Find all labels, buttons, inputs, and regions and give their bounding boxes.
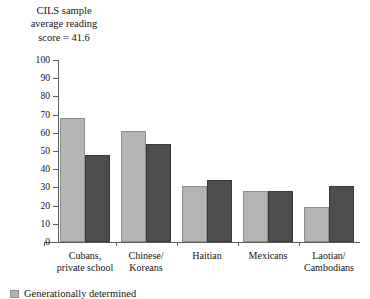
bar xyxy=(121,131,146,242)
y-axis-tick-label: 20 xyxy=(22,201,50,211)
y-axis-tick xyxy=(53,224,58,225)
y-axis-line xyxy=(58,60,59,243)
bar xyxy=(304,207,329,242)
bar xyxy=(207,180,232,242)
y-axis-tick-label: 60 xyxy=(22,128,50,138)
chart-legend: Generationally determined xyxy=(10,288,136,299)
y-axis-tick-label: 100 xyxy=(22,55,50,65)
y-axis-tick-label: 70 xyxy=(22,110,50,120)
y-axis-tick xyxy=(53,187,58,188)
category-label-line-2: Koreans xyxy=(91,262,201,274)
bar xyxy=(268,191,293,242)
chart-title-line-2: average reading xyxy=(8,17,120,30)
x-axis-separator-tick xyxy=(116,242,117,246)
bar xyxy=(85,155,110,242)
y-axis-tick xyxy=(53,151,58,152)
x-axis-separator-tick xyxy=(177,242,178,246)
bar xyxy=(146,144,171,242)
x-axis-separator-tick xyxy=(238,242,239,246)
x-axis-start-tick xyxy=(44,242,45,246)
bar xyxy=(60,118,85,242)
chart-title-line-1: CILS sample xyxy=(8,4,120,17)
y-axis-tick xyxy=(53,78,58,79)
y-axis-tick xyxy=(53,206,58,207)
y-axis-tick-label: 30 xyxy=(22,182,50,192)
bar xyxy=(182,186,207,242)
bar xyxy=(329,186,354,242)
category-label-line-1: Laotian/ xyxy=(274,250,370,262)
y-axis-tick xyxy=(53,60,58,61)
y-axis-tick-label: 10 xyxy=(22,219,50,229)
y-axis-tick xyxy=(53,133,58,134)
bar xyxy=(243,191,268,242)
chart-title: CILS sample average reading score = 41.6 xyxy=(8,4,120,44)
legend-swatch-light xyxy=(10,290,19,298)
y-axis-tick-label: 50 xyxy=(22,146,50,156)
y-axis-tick xyxy=(53,115,58,116)
legend-label: Generationally determined xyxy=(24,288,136,299)
y-axis-tick xyxy=(53,242,58,243)
category-label-line-2: Cambodians xyxy=(274,262,370,274)
y-axis-tick-label: 0 xyxy=(22,237,50,247)
y-axis-tick-label: 80 xyxy=(22,91,50,101)
x-axis-category-label: Laotian/Cambodians xyxy=(274,250,370,274)
y-axis-tick xyxy=(53,169,58,170)
y-axis-tick-label: 40 xyxy=(22,164,50,174)
y-axis-tick-label: 90 xyxy=(22,73,50,83)
y-axis-tick xyxy=(53,96,58,97)
x-axis-separator-tick xyxy=(299,242,300,246)
x-axis-line xyxy=(44,242,360,243)
chart-title-line-3: score = 41.6 xyxy=(8,31,120,44)
